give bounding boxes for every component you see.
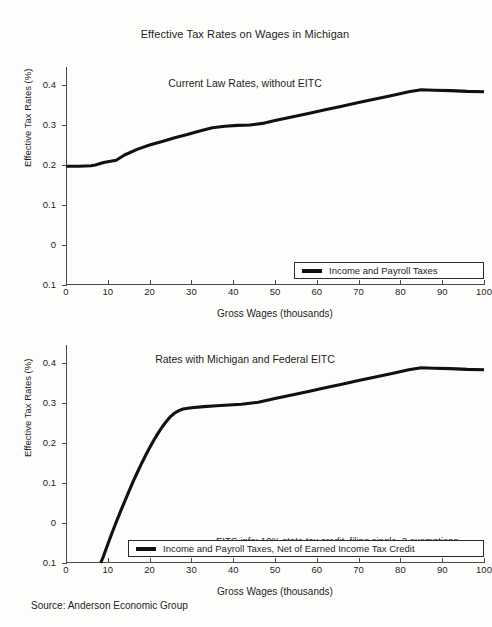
- series-line: [101, 368, 484, 563]
- y-tick-label: 0: [51, 517, 56, 528]
- x-tick-label: 100: [476, 564, 492, 575]
- legend-label: Income and Payroll Taxes, Net of Earned …: [163, 543, 415, 554]
- x-tick-label: 90: [437, 564, 448, 575]
- chart-with-eitc: Rates with Michigan and Federal EITC Eff…: [0, 345, 490, 610]
- x-tick-label: 0: [63, 286, 68, 297]
- x-tick-label: 80: [395, 564, 406, 575]
- x-tick-label: 70: [353, 564, 364, 575]
- x-tick-label: 60: [312, 564, 323, 575]
- y-tick-label: 0.1: [43, 557, 56, 568]
- x-axis-label: Gross Wages (thousands): [66, 586, 484, 597]
- legend-line-swatch-icon: [302, 269, 322, 273]
- x-tick-label: 100: [476, 286, 492, 297]
- y-tick-label: 0.1: [43, 279, 56, 290]
- x-tick-label: 30: [186, 286, 197, 297]
- y-tick-label: 0.3: [43, 397, 56, 408]
- y-tick-label: 0.1: [43, 199, 56, 210]
- series-plot: [66, 345, 484, 563]
- source-note: Source: Anderson Economic Group: [31, 600, 188, 611]
- chart-current-law: Current Law Rates, without EITC Effectiv…: [0, 55, 490, 320]
- x-tick-label: 20: [144, 564, 155, 575]
- series-plot: [66, 67, 484, 285]
- y-tick-label: 0.4: [43, 79, 56, 90]
- x-tick-label: 50: [270, 564, 281, 575]
- y-tick-label: 0.1: [43, 477, 56, 488]
- legend-label: Income and Payroll Taxes: [329, 265, 438, 276]
- page-title: Effective Tax Rates on Wages in Michigan: [0, 28, 490, 40]
- y-axis-label: Effective Tax Rates (%): [22, 445, 33, 457]
- x-tick-label: 10: [103, 286, 114, 297]
- plot-area: 0.100.10.20.30.4 0102030405060708090100 …: [66, 363, 484, 563]
- y-tick-label: 0.4: [43, 357, 56, 368]
- x-tick-label: 60: [312, 286, 323, 297]
- legend: Income and Payroll Taxes, Net of Earned …: [128, 540, 484, 557]
- y-axis-label: Effective Tax Rates (%): [22, 155, 33, 167]
- y-tick-label: 0.2: [43, 159, 56, 170]
- x-tick-label: 30: [186, 564, 197, 575]
- x-tick: 100: [484, 558, 485, 563]
- x-tick: 100: [484, 280, 485, 285]
- series-line: [66, 90, 484, 166]
- x-tick-label: 50: [270, 286, 281, 297]
- x-tick-label: 70: [353, 286, 364, 297]
- y-tick-label: 0: [51, 239, 56, 250]
- x-tick-label: 20: [144, 286, 155, 297]
- x-tick-label: 40: [228, 564, 239, 575]
- y-tick-label: 0.3: [43, 119, 56, 130]
- plot-area: 0.100.10.20.30.4 0102030405060708090100: [66, 85, 484, 285]
- legend: Income and Payroll Taxes: [294, 262, 484, 279]
- x-axis-label: Gross Wages (thousands): [66, 308, 484, 319]
- x-tick-label: 40: [228, 286, 239, 297]
- x-tick-label: 0: [63, 564, 68, 575]
- legend-line-swatch-icon: [136, 547, 156, 551]
- y-tick-label: 0.2: [43, 437, 56, 448]
- x-tick-label: 90: [437, 286, 448, 297]
- x-tick-label: 10: [103, 564, 114, 575]
- x-tick-label: 80: [395, 286, 406, 297]
